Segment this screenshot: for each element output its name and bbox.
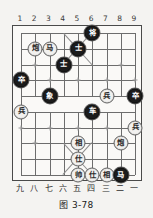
board-file-line bbox=[50, 112, 51, 175]
column-label-bottom-5: 五 bbox=[73, 183, 81, 195]
board-file-line bbox=[135, 33, 136, 175]
piece-black-p07[interactable]: 象 bbox=[42, 89, 57, 104]
piece-label: 象 bbox=[46, 92, 53, 99]
board-file-line bbox=[107, 33, 108, 96]
piece-label: 士 bbox=[74, 45, 81, 52]
piece-label: 炮 bbox=[117, 140, 124, 147]
column-label-bottom-4: 六 bbox=[59, 183, 67, 195]
column-label-bottom-1: 九 bbox=[16, 183, 24, 195]
board-file-line bbox=[107, 112, 108, 175]
piece-black-p11[interactable]: 车 bbox=[85, 104, 100, 119]
piece-red-p02[interactable]: 炮 bbox=[28, 41, 43, 56]
piece-label: 仕 bbox=[89, 171, 96, 178]
piece-black-p04[interactable]: 士 bbox=[71, 41, 86, 56]
xiangqi-figure: 123456789 将炮马士士卒象兵卒兵车兵相炮仕帅仕相马 九八七六五四三二一 … bbox=[0, 0, 153, 218]
piece-red-p16[interactable]: 帅 bbox=[71, 168, 86, 183]
column-label-bottom-9: 一 bbox=[130, 183, 138, 195]
piece-red-p18[interactable]: 相 bbox=[99, 168, 114, 183]
piece-red-p03[interactable]: 马 bbox=[42, 41, 57, 56]
piece-label: 相 bbox=[74, 140, 81, 147]
piece-label: 将 bbox=[89, 29, 96, 36]
piece-label: 卒 bbox=[17, 77, 24, 84]
piece-label: 相 bbox=[103, 171, 110, 178]
piece-red-p15[interactable]: 仕 bbox=[71, 152, 86, 167]
piece-label: 马 bbox=[46, 45, 53, 52]
column-label-top-2: 2 bbox=[32, 13, 37, 24]
piece-black-p06[interactable]: 卒 bbox=[14, 73, 29, 88]
column-label-top-5: 5 bbox=[75, 13, 80, 24]
column-label-bottom-7: 三 bbox=[102, 183, 110, 195]
piece-red-p12[interactable]: 兵 bbox=[128, 120, 143, 135]
piece-label: 车 bbox=[89, 108, 96, 115]
column-label-bottom-6: 四 bbox=[87, 183, 95, 195]
column-label-top-7: 7 bbox=[103, 13, 108, 24]
piece-red-p17[interactable]: 仕 bbox=[85, 168, 100, 183]
board-file-line bbox=[92, 112, 93, 175]
column-label-top-4: 4 bbox=[60, 13, 65, 24]
xiangqi-board: 将炮马士士卒象兵卒兵车兵相炮仕帅仕相马 bbox=[12, 25, 142, 181]
piece-red-p10[interactable]: 兵 bbox=[14, 104, 29, 119]
piece-label: 兵 bbox=[103, 92, 110, 99]
column-label-top-3: 3 bbox=[46, 13, 51, 24]
figure-caption: 图 3-78 bbox=[0, 198, 153, 211]
piece-label: 马 bbox=[117, 171, 124, 178]
column-label-bottom-8: 二 bbox=[116, 183, 124, 195]
piece-black-p01[interactable]: 将 bbox=[85, 26, 100, 41]
piece-black-p09[interactable]: 卒 bbox=[128, 89, 143, 104]
board-rank-line bbox=[21, 96, 135, 97]
column-label-bottom-3: 七 bbox=[45, 183, 53, 195]
piece-red-p08[interactable]: 兵 bbox=[99, 89, 114, 104]
column-index-row-top: 123456789 bbox=[9, 13, 145, 24]
piece-label: 士 bbox=[60, 61, 67, 68]
column-index-row-bottom: 九八七六五四三二一 bbox=[9, 183, 145, 195]
piece-label: 仕 bbox=[74, 156, 81, 163]
river-band bbox=[14, 95, 140, 112]
column-label-top-1: 1 bbox=[18, 13, 23, 24]
column-label-top-8: 8 bbox=[117, 13, 122, 24]
piece-label: 炮 bbox=[32, 45, 39, 52]
column-label-bottom-2: 八 bbox=[30, 183, 38, 195]
piece-label: 兵 bbox=[17, 108, 24, 115]
piece-red-p13[interactable]: 相 bbox=[71, 136, 86, 151]
column-label-top-6: 6 bbox=[89, 13, 94, 24]
piece-red-p14[interactable]: 炮 bbox=[113, 136, 128, 151]
piece-label: 兵 bbox=[131, 124, 138, 131]
column-label-top-9: 9 bbox=[132, 13, 137, 24]
piece-label: 帅 bbox=[74, 171, 81, 178]
board-file-line bbox=[121, 33, 122, 96]
piece-label: 卒 bbox=[131, 92, 138, 99]
board-file-line bbox=[35, 112, 36, 175]
piece-black-p05[interactable]: 士 bbox=[56, 57, 71, 72]
piece-black-p19[interactable]: 马 bbox=[113, 168, 128, 183]
